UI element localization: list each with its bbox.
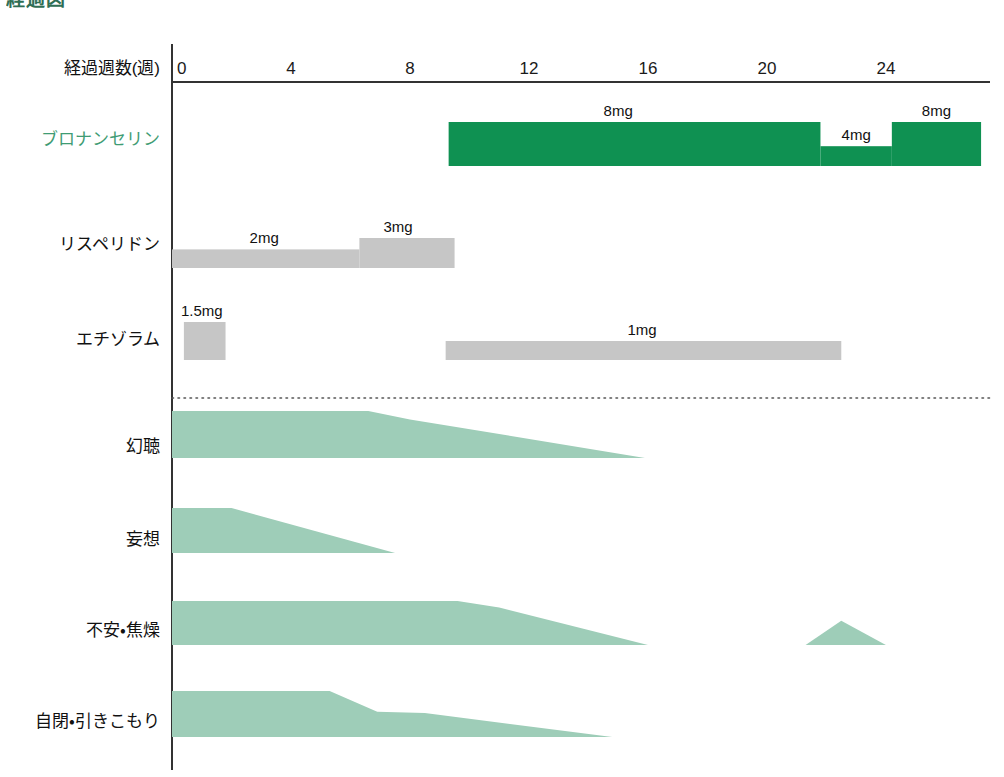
page-title: 経過図 bbox=[6, 0, 66, 11]
x-tick-label-4: 4 bbox=[286, 59, 295, 78]
symptom-row-1 bbox=[172, 508, 395, 553]
row-label-medication-1: リスペリドン bbox=[59, 235, 160, 254]
symptom-band bbox=[172, 508, 395, 553]
dose-label-4mg: 4mg bbox=[842, 126, 871, 143]
dose-bar-8mg bbox=[892, 122, 981, 166]
rows-group: 8mg4mg8mg2mg3mg1.5mg1mg bbox=[172, 102, 981, 737]
medication-row-2: 1.5mg1mg bbox=[181, 302, 841, 360]
symptom-band bbox=[172, 691, 612, 737]
dose-label-1mg: 1mg bbox=[627, 321, 656, 338]
x-tick-label-8: 8 bbox=[405, 59, 414, 78]
dose-bar-1-5mg bbox=[184, 322, 226, 360]
axis-title: 経過週数(週) bbox=[64, 59, 160, 78]
symptom-relapse-peak-0 bbox=[806, 621, 886, 645]
dose-bar-8mg bbox=[449, 122, 821, 166]
dose-bar-4mg bbox=[820, 146, 891, 166]
symptom-row-0 bbox=[172, 411, 645, 458]
row-label-medication-2: エチゾラム bbox=[76, 330, 160, 349]
dose-label-8mg: 8mg bbox=[604, 102, 633, 119]
symptom-band bbox=[172, 601, 648, 645]
symptom-band bbox=[172, 411, 645, 458]
clinical-course-chart: 経過図 経過週数(週)04812162024 8mg4mg8mg2mg3mg1.… bbox=[0, 0, 1004, 777]
dose-bar-1mg bbox=[446, 341, 842, 360]
row-label-symptom-0: 幻聴 bbox=[126, 437, 160, 456]
medication-row-1: 2mg3mg bbox=[172, 218, 455, 268]
chart-canvas: 経過週数(週)04812162024 8mg4mg8mg2mg3mg1.5mg1… bbox=[0, 0, 1004, 777]
labels-group: ブロナンセリンリスペリドンエチゾラム幻聴妄想不安・焦燥自閉・引きこもり bbox=[35, 129, 160, 731]
dose-label-1-5mg: 1.5mg bbox=[181, 302, 223, 319]
x-tick-label-16: 16 bbox=[638, 59, 657, 78]
dose-label-3mg: 3mg bbox=[383, 218, 412, 235]
symptom-row-2 bbox=[172, 601, 886, 645]
dose-label-2mg: 2mg bbox=[250, 229, 279, 246]
x-tick-label-20: 20 bbox=[757, 59, 776, 78]
dose-bar-3mg bbox=[359, 238, 454, 268]
symptom-row-3 bbox=[172, 691, 612, 737]
x-tick-label-0: 0 bbox=[177, 59, 186, 78]
row-label-symptom-3: 自閉・引きこもり bbox=[35, 712, 160, 731]
medication-row-0: 8mg4mg8mg bbox=[449, 102, 981, 166]
dose-label-8mg: 8mg bbox=[922, 102, 951, 119]
x-tick-label-12: 12 bbox=[519, 59, 538, 78]
x-tick-label-24: 24 bbox=[876, 59, 895, 78]
row-label-symptom-2: 不安・焦燥 bbox=[86, 621, 160, 640]
dose-bar-2mg bbox=[172, 249, 359, 268]
row-label-symptom-1: 妄想 bbox=[126, 530, 160, 549]
row-label-medication-0: ブロナンセリン bbox=[41, 129, 160, 149]
